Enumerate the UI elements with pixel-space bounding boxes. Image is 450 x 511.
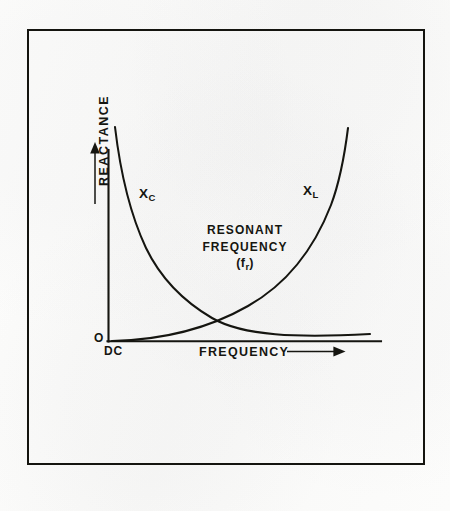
curve-label-xc-subscript: C [149,192,156,203]
x-axis-start-label: DC [104,345,123,358]
annotation-line-1: RESONANT [185,222,305,239]
curve-label-xl: XL [303,183,318,200]
x-axis-label: FREQUENCY [199,345,289,359]
y-axis-label: REACTANCE [97,95,111,186]
curve-label-xc: XC [139,186,155,203]
resonant-frequency-annotation: RESONANT FREQUENCY (fr) [185,222,305,273]
fr-close: ) [249,256,254,270]
origin-label: O [94,332,104,345]
curve-label-xl-subscript: L [313,189,319,200]
annotation-line-3: (fr) [185,255,305,273]
curve-label-xl-symbol: X [303,183,313,198]
figure-page: REACTANCE FREQUENCY O DC XC XL RESONANT … [0,0,450,511]
curve-label-xc-symbol: X [139,186,149,201]
annotation-line-2: FREQUENCY [185,239,305,256]
